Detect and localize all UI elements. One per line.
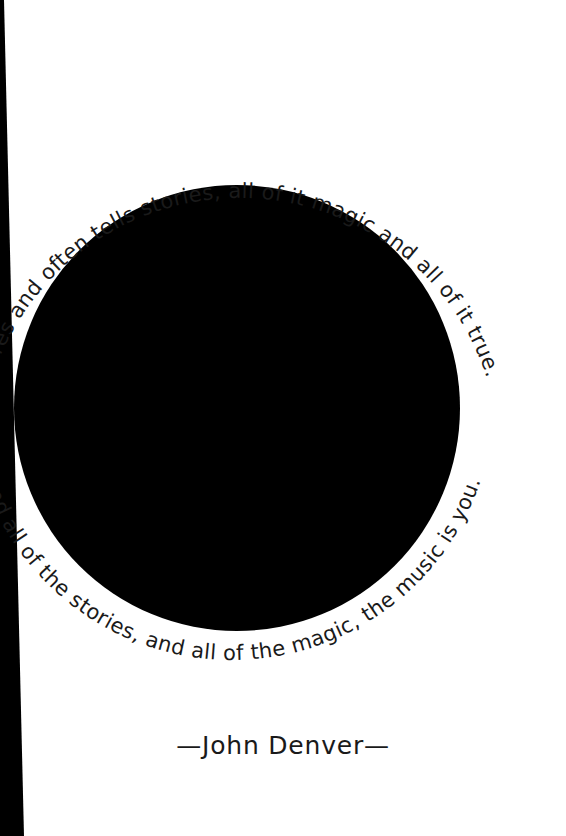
quote-page: pictures and often tells stories, all of… (0, 0, 566, 836)
attribution-line: —John Denver— (0, 731, 566, 760)
page-artwork: pictures and often tells stories, all of… (0, 0, 566, 836)
